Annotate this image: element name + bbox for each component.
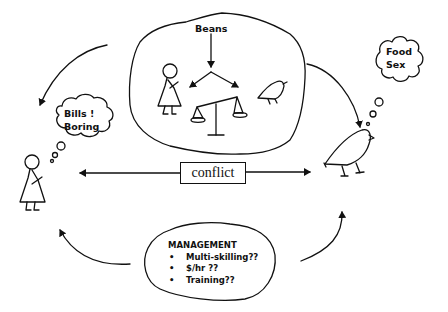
left-thought-text: Bills ! Boring xyxy=(64,107,99,133)
bird-icon xyxy=(324,130,374,176)
right-thought-line2: Sex xyxy=(386,58,412,71)
conflict-box: conflict xyxy=(180,162,246,184)
right-thought-line1: Food xyxy=(386,45,412,58)
bird-figure-center-icon xyxy=(258,81,287,104)
woman-worker-icon xyxy=(20,155,45,210)
management-title: MANAGEMENT xyxy=(168,240,258,252)
conflict-label: conflict xyxy=(192,165,235,181)
left-thought-line1: Bills ! xyxy=(64,107,99,120)
beans-split-arrows xyxy=(190,34,238,87)
management-block: MANAGEMENT Multi-skilling?? $/hr ?? Trai… xyxy=(168,240,258,286)
management-item: Training?? xyxy=(168,275,258,287)
arrow-to-worker xyxy=(40,45,107,105)
right-thought-text: Food Sex xyxy=(386,45,412,71)
arrow-to-bird xyxy=(307,64,360,127)
management-item: $/hr ?? xyxy=(168,263,258,275)
left-thought-line2: Boring xyxy=(64,120,99,133)
woman-figure-center-icon xyxy=(158,64,181,114)
management-item: Multi-skilling?? xyxy=(168,252,258,264)
balance-scale-icon xyxy=(191,97,247,135)
arrow-mgmt-to-bird xyxy=(301,212,342,261)
beans-label: Beans xyxy=(195,22,228,35)
management-list: Multi-skilling?? $/hr ?? Training?? xyxy=(168,252,258,287)
arrow-mgmt-to-worker xyxy=(60,230,130,264)
